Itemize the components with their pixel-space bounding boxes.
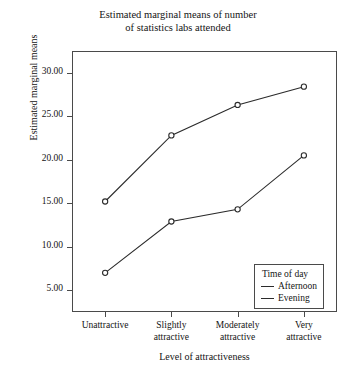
legend-item-label: Evening bbox=[278, 292, 310, 304]
legend-title: Time of day bbox=[261, 268, 317, 280]
y-tick-mark bbox=[67, 160, 72, 161]
chart-title-line-1: Estimated marginal means of number bbox=[38, 8, 318, 21]
y-tick-mark bbox=[67, 290, 72, 291]
y-tick-label: 10.00 bbox=[42, 240, 63, 250]
y-tick-label: 25.00 bbox=[42, 109, 63, 119]
y-tick-label: 20.00 bbox=[42, 153, 63, 163]
x-tick-label-line: attractive bbox=[259, 332, 349, 344]
chart-title-line-2: of statistics labs attended bbox=[38, 21, 318, 34]
y-tick-mark bbox=[67, 73, 72, 74]
legend: Time of day AfternoonEvening bbox=[254, 264, 324, 309]
y-tick-label: 15.00 bbox=[42, 196, 63, 206]
x-axis-title: Level of attractiveness bbox=[72, 351, 337, 362]
x-tick-mark bbox=[105, 312, 106, 317]
x-tick-mark bbox=[238, 312, 239, 317]
x-tick-mark bbox=[304, 312, 305, 317]
chart-title: Estimated marginal means of number of st… bbox=[38, 8, 318, 34]
y-tick-label: 30.00 bbox=[42, 66, 63, 76]
legend-line-icon bbox=[261, 286, 274, 287]
legend-item-evening: Evening bbox=[261, 292, 317, 304]
x-tick-mark bbox=[171, 312, 172, 317]
x-tick-label-line: Very bbox=[259, 320, 349, 332]
y-tick-mark bbox=[67, 116, 72, 117]
y-tick-label: 5.00 bbox=[46, 283, 63, 293]
y-axis-title: Estimated marginal means bbox=[28, 8, 39, 168]
legend-rows: AfternoonEvening bbox=[261, 280, 317, 304]
y-tick-mark bbox=[67, 203, 72, 204]
y-tick-mark bbox=[67, 247, 72, 248]
x-tick-label: Veryattractive bbox=[259, 320, 349, 343]
legend-line-icon bbox=[261, 298, 274, 299]
chart-page: Estimated marginal means of number of st… bbox=[0, 0, 356, 375]
legend-item-afternoon: Afternoon bbox=[261, 280, 317, 292]
legend-item-label: Afternoon bbox=[278, 280, 317, 292]
